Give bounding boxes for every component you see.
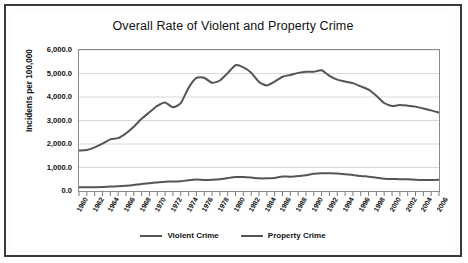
x-tick-label: 1960 [75,196,89,213]
x-tick-label: 1982 [247,196,261,213]
x-tick-label: 1988 [294,196,308,213]
y-tick-label: 2,000.0 [26,139,72,148]
legend-entry[interactable]: Violent Crime [140,231,218,240]
x-tick-label: 1998 [373,196,387,213]
y-tick-label: 0.0 [26,186,72,195]
x-tick-label: 1970 [153,196,167,213]
x-tick-label: 1972 [169,196,183,213]
x-tick-label: 1980 [232,196,246,213]
y-tick-label: 3,000.0 [26,115,72,124]
x-tick-label: 1974 [185,196,199,213]
x-axis-tick-labels: 1960196219641966196819701972197419761978… [78,196,440,236]
x-tick-label: 2004 [420,196,434,213]
y-axis-tick-labels: 6,000.05,000.04,000.03,000.02,000.01,000… [26,49,72,192]
x-tick-label: 2002 [404,196,418,213]
legend-label: Property Crime [268,231,326,240]
x-tick-label: 1964 [107,196,121,213]
y-tick-label: 4,000.0 [26,92,72,101]
x-tick-label: 1962 [91,196,105,213]
chart-canvas [79,50,439,191]
x-tick-label: 1978 [216,196,230,213]
x-tick-label: 1968 [138,196,152,213]
chart-outer-frame: Overall Rate of Violent and Property Cri… [4,4,462,257]
x-tick-label: 1966 [122,196,136,213]
x-tick-label: 2000 [388,196,402,213]
plot-wrapper [78,49,440,192]
y-tick-label: 5,000.0 [26,68,72,77]
legend-label: Violent Crime [167,231,218,240]
series-line-1 [79,173,439,187]
x-tick-label: 1976 [200,196,214,213]
plot-area [78,49,440,192]
series-line-2 [79,65,439,150]
x-tick-label: 1994 [341,196,355,213]
x-tick-label: 1984 [263,196,277,213]
y-tick-label: 1,000.0 [26,162,72,171]
x-tick-label: 1986 [279,196,293,213]
chart-legend: Violent CrimeProperty Crime [12,231,454,240]
y-tick-label: 6,000.0 [26,45,72,54]
x-tick-label: 1992 [326,196,340,213]
x-tick-label: 1990 [310,196,324,213]
x-tick-label: 2006 [435,196,449,213]
legend-line-swatch [140,235,162,237]
chart-container: Overall Rate of Violent and Property Cri… [12,12,454,249]
x-tick-label: 1996 [357,196,371,213]
chart-title: Overall Rate of Violent and Property Cri… [12,19,454,33]
legend-line-swatch [241,235,263,237]
legend-entry[interactable]: Property Crime [241,231,326,240]
